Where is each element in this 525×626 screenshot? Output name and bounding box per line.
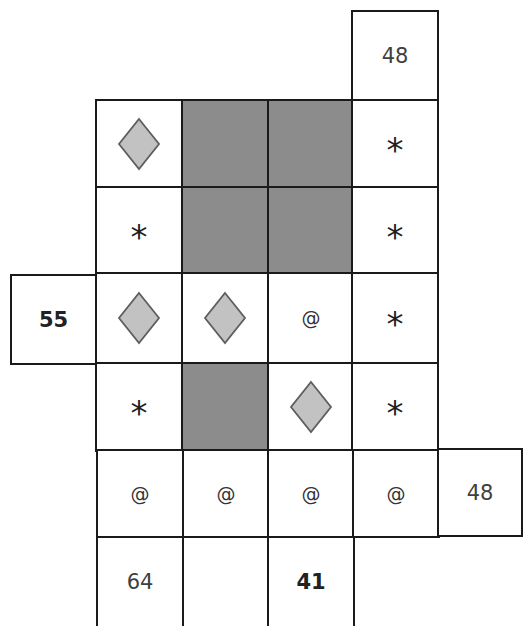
grid-cell-r2-c2-shaded — [181, 186, 269, 275]
grid-cell-r4-c3[interactable] — [267, 362, 355, 452]
grid-cell-r3-c4[interactable]: * — [351, 272, 439, 364]
grid-cell-r3-c1[interactable] — [95, 272, 183, 364]
grid-cell-r3-c2[interactable] — [181, 272, 269, 364]
clue-left-row-3: 55 — [10, 274, 97, 365]
clue-bottom-column-3: 41 — [267, 536, 355, 626]
at-symbol: @ — [302, 483, 321, 505]
diamond-icon — [117, 117, 161, 171]
diamond-icon — [289, 380, 333, 434]
grid-cell-r3-c3[interactable]: @ — [267, 272, 355, 364]
grid-cell-r2-c4[interactable]: * — [351, 186, 439, 275]
grid-cell-r4-c1[interactable]: * — [95, 362, 183, 452]
grid-cell-r1-c1[interactable] — [95, 99, 183, 189]
grid-cell-r5-c2[interactable]: @ — [182, 449, 270, 539]
at-symbol: @ — [131, 483, 150, 505]
clue-value: 41 — [296, 570, 325, 594]
star-symbol: * — [387, 220, 404, 254]
grid-cell-r5-c1[interactable]: @ — [96, 449, 184, 539]
clue-bottom-column-2 — [182, 536, 270, 626]
clue-top-column-4: 48 — [351, 10, 439, 102]
star-symbol: * — [387, 133, 404, 167]
clue-value: 48 — [467, 481, 494, 505]
clue-bottom-column-1: 64 — [96, 536, 184, 626]
clue-value: 48 — [382, 44, 409, 68]
clue-right-row-5: 48 — [437, 448, 523, 537]
star-symbol: * — [387, 396, 404, 430]
grid-cell-r5-c4[interactable]: @ — [352, 449, 440, 538]
grid-cell-r2-c1[interactable]: * — [95, 186, 183, 275]
grid-cell-r1-c3-shaded — [267, 99, 355, 189]
grid-cell-r1-c2-shaded — [181, 99, 269, 189]
clue-value: 55 — [39, 308, 68, 332]
star-symbol: * — [131, 396, 148, 430]
grid-cell-r4-c2-shaded — [181, 362, 269, 452]
at-symbol: @ — [302, 307, 321, 329]
star-symbol: * — [131, 220, 148, 254]
grid-cell-r5-c3[interactable]: @ — [267, 449, 355, 539]
at-symbol: @ — [217, 483, 236, 505]
at-symbol: @ — [387, 483, 406, 505]
star-symbol: * — [387, 307, 404, 341]
grid-cell-r1-c4[interactable]: * — [351, 99, 439, 189]
grid-cell-r2-c3-shaded — [267, 186, 355, 275]
diamond-icon — [117, 291, 161, 345]
grid-cell-r4-c4[interactable]: * — [351, 362, 439, 452]
diamond-icon — [203, 291, 247, 345]
clue-value: 64 — [127, 570, 154, 594]
